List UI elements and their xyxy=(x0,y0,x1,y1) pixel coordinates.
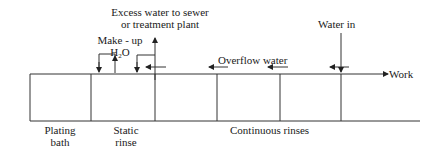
makeup-line-1: Make - up xyxy=(95,34,145,46)
excess-water-label: Excess water to sewer or treatment plant xyxy=(100,6,220,30)
excess-line-1: Excess water to sewer xyxy=(100,6,220,18)
plating-bath-label: Plating bath xyxy=(32,124,88,148)
excess-line-2: or treatment plant xyxy=(100,18,220,30)
water-in-label: Water in xyxy=(318,18,355,30)
plating-line-2: bath xyxy=(32,136,88,148)
plating-line-1: Plating xyxy=(32,124,88,136)
continuous-rinses-label: Continuous rinses xyxy=(230,124,309,136)
static-line-2: rinse xyxy=(98,136,154,148)
makeup-label: Make - up H2O xyxy=(95,34,145,62)
static-line-1: Static xyxy=(98,124,154,136)
static-rinse-label: Static rinse xyxy=(98,124,154,148)
makeup-o: O xyxy=(122,46,130,58)
makeup-line-2: H2O xyxy=(95,46,145,62)
overflow-water-label: Overflow water xyxy=(218,54,287,66)
work-label: Work xyxy=(389,68,413,80)
